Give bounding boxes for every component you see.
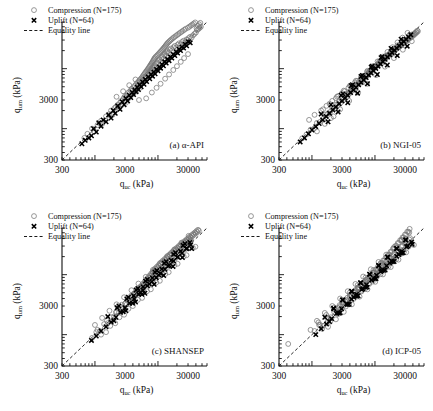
data-point-core — [117, 105, 119, 107]
y-tick-label: 3000 — [39, 301, 58, 311]
data-point-core — [154, 73, 156, 75]
figure-container: 3003000300003003000quc (kPa)qum (kPa)Com… — [0, 0, 433, 411]
data-point-core — [329, 104, 331, 106]
data-point — [314, 129, 319, 134]
data-point-core — [115, 316, 117, 318]
data-point-core — [93, 128, 95, 130]
data-point-core — [346, 102, 348, 104]
y-tick-label: 3000 — [256, 301, 275, 311]
data-point — [285, 341, 290, 346]
data-point — [129, 287, 134, 292]
data-point-core — [355, 294, 357, 296]
x-tick-label: 300 — [55, 165, 70, 175]
data-point-core — [386, 256, 388, 258]
data-point-core — [81, 143, 83, 145]
data-point-core — [404, 239, 406, 241]
data-point-core — [303, 137, 305, 139]
data-point-core — [145, 280, 147, 282]
legend-label: Equality line — [48, 231, 90, 240]
x-tick-labels-d: 300300030000 — [271, 370, 416, 380]
data-point-core — [341, 93, 343, 95]
x-axis-title: quc (kPa) — [120, 385, 154, 396]
data-point — [167, 72, 172, 77]
data-point-core — [310, 129, 312, 131]
data-point-core — [161, 268, 163, 270]
data-point-core — [411, 243, 413, 245]
data-point-core — [385, 264, 387, 266]
data-point-core — [141, 293, 143, 295]
data-point-core — [151, 277, 153, 279]
y-axis-title: qum (kPa) — [229, 283, 240, 319]
data-point-core — [133, 294, 135, 296]
plot-b: 3003000300003003000quc (kPa)qum (kPa)Com… — [217, 0, 433, 206]
data-point — [114, 94, 119, 99]
y-tick-labels-b: 3003000 — [256, 95, 275, 165]
data-point-core — [164, 268, 166, 270]
data-point — [174, 64, 179, 69]
data-point-core — [364, 286, 366, 288]
x-tick-label: 300 — [271, 370, 286, 380]
legend-label: Compression (N=175) — [48, 6, 122, 15]
data-point — [137, 98, 142, 103]
plot-d: 3003000300003003000quc (kPa)qum (kPa)Com… — [217, 206, 433, 411]
data-point-core — [135, 289, 137, 291]
data-point-core — [371, 65, 373, 67]
data-point-core — [382, 269, 384, 271]
y-axis-title: qum (kPa) — [229, 77, 240, 113]
x-tick-label: 30000 — [393, 165, 417, 175]
data-point-core — [340, 307, 342, 309]
data-point-core — [351, 84, 353, 86]
data-point-core — [153, 283, 155, 285]
data-point — [306, 117, 311, 122]
data-point-core — [158, 273, 160, 275]
data-point-core — [123, 104, 125, 106]
x-tick-labels-a: 300300030000 — [55, 165, 200, 175]
data-point-core — [356, 92, 358, 94]
y-tick-labels-d: 3003000 — [256, 301, 275, 371]
legend-label: Compression (N=175) — [265, 211, 339, 220]
x-tick-label: 30000 — [176, 165, 200, 175]
x-tick-label: 30000 — [176, 370, 200, 380]
legend-label: Compression (N=175) — [265, 6, 339, 15]
data-point-core — [328, 320, 330, 322]
data-point-core — [167, 265, 169, 267]
data-point-core — [368, 273, 370, 275]
data-point-core — [314, 126, 316, 128]
y-tick-label: 300 — [44, 155, 59, 165]
data-point-core — [182, 244, 184, 246]
data-point — [175, 261, 180, 266]
legend-label: Equality line — [265, 231, 307, 240]
data-point-core — [327, 121, 329, 123]
data-point-core — [359, 281, 361, 283]
data-point-core — [154, 271, 156, 273]
data-point-core — [321, 119, 323, 121]
x-tick-label: 300 — [55, 370, 70, 380]
panel-label-d: (d) ICP-05 — [382, 346, 421, 356]
x-tick-label: 3000 — [332, 370, 351, 380]
data-point-core — [122, 310, 124, 312]
data-point — [92, 322, 97, 327]
data-point-core — [409, 34, 411, 36]
data-point-core — [400, 38, 402, 40]
data-point — [144, 96, 149, 101]
panel-c: 3003000300003003000quc (kPa)qum (kPa)Com… — [0, 206, 217, 411]
cross-star-icon-core — [33, 19, 35, 21]
data-point-core — [373, 277, 375, 279]
legend-b: Compression (N=175)Uplift (N=64)Equality… — [241, 6, 339, 35]
data-point-core — [325, 115, 327, 117]
data-point — [171, 68, 176, 73]
data-point-core — [105, 325, 107, 327]
data-point-core — [328, 112, 330, 114]
legend-label: Uplift (N=64) — [265, 221, 311, 230]
data-point — [154, 85, 159, 90]
data-point — [149, 90, 154, 95]
data-point-core — [307, 133, 309, 135]
data-point — [127, 83, 132, 88]
data-point-core — [186, 45, 188, 47]
legend-label: Uplift (N=64) — [48, 16, 94, 25]
data-point-core — [116, 306, 118, 308]
data-point-core — [186, 247, 188, 249]
data-point-core — [191, 247, 193, 249]
legend-label: Equality line — [48, 26, 90, 35]
data-point-core — [337, 312, 339, 314]
